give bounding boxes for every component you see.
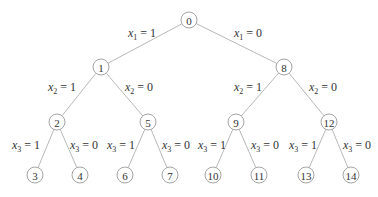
edge-label: x3 = 1 xyxy=(197,138,226,154)
edge-label: x2 = 1 xyxy=(233,80,262,96)
tree-node-10: 10 xyxy=(205,167,221,183)
edge-label: x3 = 1 xyxy=(288,138,317,154)
edge-label: x3 = 0 xyxy=(69,138,98,154)
svg-text:3: 3 xyxy=(32,170,38,182)
svg-text:2: 2 xyxy=(54,117,60,129)
svg-text:7: 7 xyxy=(167,170,173,182)
edge-label: x3 = 0 xyxy=(342,138,371,154)
tree-canvas: x1 = 1x1 = 0x2 = 1x2 = 0x2 = 1x2 = 0x3 =… xyxy=(0,0,378,197)
svg-text:12: 12 xyxy=(324,117,335,129)
tree-node-13: 13 xyxy=(298,167,314,183)
tree-node-12: 12 xyxy=(321,114,337,130)
tree-node-9: 9 xyxy=(228,114,244,130)
edge-label: x3 = 1 xyxy=(11,138,40,154)
edge-label: x2 = 0 xyxy=(308,80,337,96)
svg-text:1: 1 xyxy=(98,62,104,74)
tree-node-7: 7 xyxy=(162,167,178,183)
tree-node-6: 6 xyxy=(117,167,133,183)
edge-label: x1 = 0 xyxy=(233,26,262,42)
tree-node-8: 8 xyxy=(276,59,292,75)
tree-node-14: 14 xyxy=(343,167,359,183)
svg-text:6: 6 xyxy=(122,170,128,182)
edge-labels: x1 = 1x1 = 0x2 = 1x2 = 0x2 = 1x2 = 0x3 =… xyxy=(11,26,371,154)
edge-label: x3 = 0 xyxy=(161,138,190,154)
edge-label: x2 = 1 xyxy=(47,80,76,96)
edge-label: x3 = 0 xyxy=(250,138,279,154)
edge-label: x1 = 1 xyxy=(127,26,156,42)
svg-text:4: 4 xyxy=(77,170,83,182)
svg-text:5: 5 xyxy=(145,117,151,129)
tree-node-3: 3 xyxy=(27,167,43,183)
tree-node-5: 5 xyxy=(140,114,156,130)
tree-node-0: 0 xyxy=(181,12,197,28)
svg-text:8: 8 xyxy=(281,62,287,74)
svg-text:9: 9 xyxy=(233,117,239,129)
svg-text:10: 10 xyxy=(208,170,220,182)
edge-label: x2 = 0 xyxy=(124,80,153,96)
tree-node-2: 2 xyxy=(49,114,65,130)
svg-text:14: 14 xyxy=(346,170,358,182)
tree-node-1: 1 xyxy=(93,59,109,75)
tree-diagram: x1 = 1x1 = 0x2 = 1x2 = 0x2 = 1x2 = 0x3 =… xyxy=(0,0,378,197)
svg-text:13: 13 xyxy=(301,170,313,182)
svg-text:0: 0 xyxy=(186,15,192,27)
svg-text:11: 11 xyxy=(254,170,265,182)
edge-label: x3 = 1 xyxy=(106,138,135,154)
tree-node-4: 4 xyxy=(72,167,88,183)
edge-2-3 xyxy=(38,129,54,167)
tree-node-11: 11 xyxy=(251,167,267,183)
